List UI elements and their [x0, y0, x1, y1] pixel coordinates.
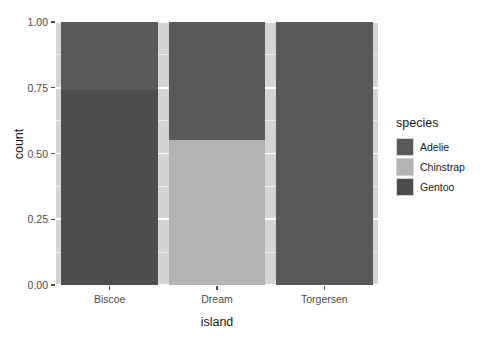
y-tick-mark — [51, 87, 55, 88]
legend-items: AdelieChinstrapGentoo — [396, 137, 482, 197]
bar-segment-dream-chinstrap — [169, 140, 266, 285]
chart-root: 0.000.250.500.751.00 BiscoeDreamTorgerse… — [0, 0, 482, 345]
y-axis-title: count — [12, 104, 26, 184]
y-tick-mark — [51, 219, 55, 220]
y-tick-label: 1.00 — [28, 17, 48, 28]
x-tick-label: Biscoe — [50, 294, 170, 305]
bar-group-dream — [169, 22, 266, 285]
bar-segment-dream-adelie — [169, 22, 266, 140]
legend-item: Adelie — [396, 137, 482, 157]
y-tick-mark — [51, 153, 55, 154]
legend-swatch-adelie — [397, 139, 413, 155]
legend-swatch-gentoo — [397, 179, 413, 195]
bar-segment-biscoe-gentoo — [61, 90, 158, 285]
x-tick-mark — [109, 286, 110, 290]
bar-group-torgersen — [276, 22, 373, 285]
legend-key-background — [396, 138, 414, 156]
x-tick-label: Torgersen — [264, 294, 384, 305]
legend-label: Adelie — [420, 141, 449, 153]
x-tick-label: Dream — [157, 294, 277, 305]
bar-segment-biscoe-adelie — [61, 22, 158, 90]
legend-key-background — [396, 158, 414, 176]
bar-group-biscoe — [61, 22, 158, 285]
top-edge-artifact — [12, 1, 102, 8]
x-axis-title: island — [56, 315, 378, 329]
legend-item: Chinstrap — [396, 157, 482, 177]
bar-segment-torgersen-adelie — [276, 22, 373, 285]
y-tick-mark — [51, 21, 55, 22]
x-tick-mark — [324, 286, 325, 290]
plot-panel — [56, 22, 378, 285]
y-tick-mark — [51, 284, 55, 285]
x-tick-mark — [216, 286, 217, 290]
y-tick-label: 0.50 — [28, 149, 48, 160]
legend-item: Gentoo — [396, 177, 482, 197]
legend-swatch-chinstrap — [397, 159, 413, 175]
legend: species AdelieChinstrapGentoo — [396, 116, 482, 197]
legend-label: Gentoo — [420, 181, 454, 193]
y-tick-label: 0.25 — [28, 214, 48, 225]
y-tick-label: 0.75 — [28, 83, 48, 94]
legend-key-background — [396, 178, 414, 196]
y-tick-label: 0.00 — [28, 280, 48, 291]
legend-title: species — [396, 116, 482, 130]
legend-label: Chinstrap — [420, 161, 465, 173]
